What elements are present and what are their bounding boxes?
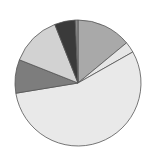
- pie-slices: [15, 20, 141, 146]
- pie-chart: [0, 0, 149, 159]
